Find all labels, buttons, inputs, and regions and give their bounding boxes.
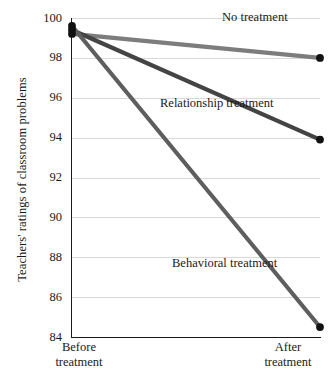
y-tick-label-96: 96 xyxy=(16,91,62,104)
y-axis-tick-labels: 8486889092949698100 xyxy=(16,0,62,377)
line-chart: Teachers' ratings of classroom problems … xyxy=(0,0,331,377)
x-axis-tick-before: Before treatment xyxy=(24,340,134,370)
series-line-2 xyxy=(72,26,320,327)
x-axis-tick-before-line1: Before xyxy=(24,340,134,355)
series-lines xyxy=(72,18,320,337)
x-axis-tick-after-line2: treatment xyxy=(248,355,328,370)
series-label-behavioral-treatment: Behavioral treatment xyxy=(172,256,277,271)
data-point-2-0 xyxy=(68,22,76,30)
data-point-0-1 xyxy=(316,54,324,62)
series-label-relationship-treatment-line2: treatment xyxy=(226,96,273,110)
y-tick-label-88: 88 xyxy=(16,251,62,264)
data-point-1-1 xyxy=(316,136,324,144)
plot-area xyxy=(72,18,320,337)
x-axis-tick-before-line2: treatment xyxy=(24,355,134,370)
y-tick-label-100: 100 xyxy=(16,12,62,25)
y-tick-label-86: 86 xyxy=(16,291,62,304)
series-label-relationship-treatment-line1: Relationship xyxy=(160,96,223,110)
x-axis-tick-after: After treatment xyxy=(248,340,328,370)
data-point-2-1 xyxy=(316,323,324,331)
y-tick-label-94: 94 xyxy=(16,131,62,144)
series-label-no-treatment-line2: treatment xyxy=(240,10,287,24)
series-label-behavioral-treatment-line1: Behavioral xyxy=(172,256,227,270)
series-label-no-treatment-line1: No xyxy=(222,10,237,24)
x-axis-tick-after-line1: After xyxy=(248,340,328,355)
y-tick-label-92: 92 xyxy=(16,171,62,184)
y-tick-label-98: 98 xyxy=(16,51,62,64)
y-tick-label-90: 90 xyxy=(16,211,62,224)
series-label-behavioral-treatment-line2: treatment xyxy=(230,256,277,270)
series-label-relationship-treatment: Relationship treatment xyxy=(160,96,274,111)
series-label-no-treatment: No treatment xyxy=(222,10,288,25)
